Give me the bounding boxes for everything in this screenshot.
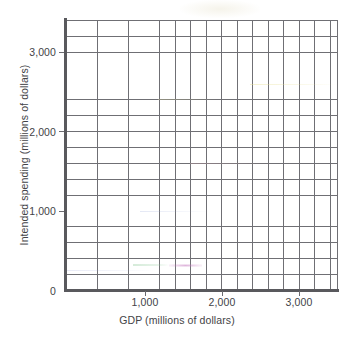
y-axis-tick-3000: [59, 52, 64, 53]
x-axis-ticklabel-1000: 1,000: [132, 296, 159, 308]
x-axis-title: GDP (millions of dollars): [0, 314, 354, 326]
x-axis-ticklabel-3000: 3,000: [286, 296, 313, 308]
scan-artifact-corner-tint: [180, 0, 260, 18]
y-axis-tick-1000: [59, 211, 64, 212]
y-axis-spine: [64, 18, 67, 292]
grid-edge-top: [66, 20, 338, 21]
grid-lines: [66, 20, 338, 290]
y-axis-tick-2000: [59, 131, 64, 132]
y-axis-title: Intended spending (millions of dollars): [18, 20, 32, 290]
x-axis-spine: [64, 289, 339, 292]
chart-figure: 3,000 2,000 1,000 0 1,000 2,000 3,000 GD…: [0, 0, 354, 339]
grid-edge-right: [337, 20, 338, 290]
plot-area: [66, 20, 338, 290]
x-axis-ticklabel-2000: 2,000: [209, 296, 236, 308]
